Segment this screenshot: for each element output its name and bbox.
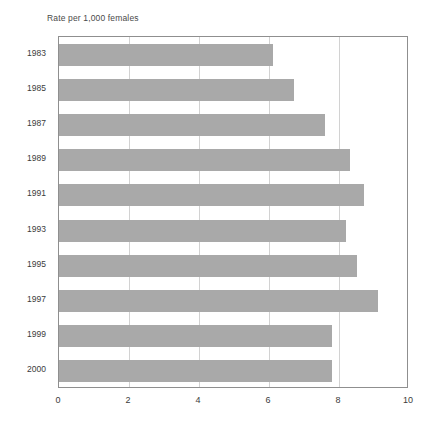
- bar-row: [59, 114, 407, 136]
- bar-row: [59, 79, 407, 101]
- plot-area: [58, 36, 408, 388]
- y-tick-label: 1991: [27, 188, 46, 198]
- y-tick-label: 1993: [27, 224, 46, 234]
- y-tick-label: 2000: [27, 364, 46, 374]
- chart-axis-caption: Rate per 1,000 females: [47, 13, 139, 23]
- x-tick-label: 8: [335, 395, 340, 405]
- bar: [59, 255, 357, 277]
- y-tick-label: 1987: [27, 118, 46, 128]
- bar: [59, 44, 273, 66]
- bar-row: [59, 255, 407, 277]
- bar: [59, 290, 378, 312]
- bar: [59, 220, 346, 242]
- y-axis-tick-labels: 1983198519871989199119931995199719992000: [0, 36, 52, 388]
- bar-row: [59, 184, 407, 206]
- x-tick-label: 4: [195, 395, 200, 405]
- y-tick-label: 1983: [27, 48, 46, 58]
- bar: [59, 325, 332, 347]
- bars-layer: [59, 37, 407, 387]
- y-tick-label: 1997: [27, 294, 46, 304]
- bar: [59, 114, 325, 136]
- bar-row: [59, 325, 407, 347]
- bar-row: [59, 360, 407, 382]
- y-tick-label: 1985: [27, 83, 46, 93]
- bar: [59, 149, 350, 171]
- x-axis-tick-labels: 0246810: [0, 395, 427, 413]
- bar: [59, 360, 332, 382]
- bar-chart-figure: Rate per 1,000 females 19831985198719891…: [0, 0, 427, 423]
- x-tick-label: 0: [55, 395, 60, 405]
- x-tick-label: 6: [265, 395, 270, 405]
- bar: [59, 79, 294, 101]
- x-tick-label: 10: [403, 395, 413, 405]
- y-tick-label: 1999: [27, 329, 46, 339]
- y-tick-label: 1989: [27, 153, 46, 163]
- bar-row: [59, 149, 407, 171]
- bar-row: [59, 44, 407, 66]
- y-tick-label: 1995: [27, 259, 46, 269]
- bar: [59, 184, 364, 206]
- x-tick-label: 2: [125, 395, 130, 405]
- bar-row: [59, 220, 407, 242]
- bar-row: [59, 290, 407, 312]
